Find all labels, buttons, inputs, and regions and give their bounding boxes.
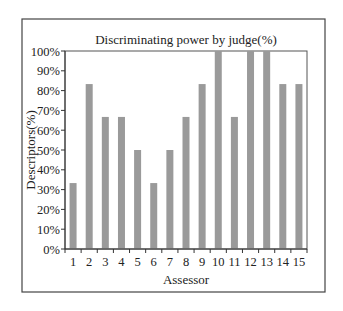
x-tick-label: 14 xyxy=(277,255,290,269)
x-tick-label: 1 xyxy=(70,255,76,269)
bar-6 xyxy=(150,183,157,249)
y-axis-label: Descriptors(%) xyxy=(23,110,38,189)
bar-4 xyxy=(118,117,125,249)
y-tick-label: 0% xyxy=(43,243,60,257)
bar-11 xyxy=(231,117,238,249)
x-tick-label: 11 xyxy=(228,255,240,269)
bar-1 xyxy=(70,183,77,249)
bars-group xyxy=(70,51,303,249)
bar-5 xyxy=(134,150,141,249)
x-tick-label: 4 xyxy=(118,255,125,269)
x-axis: 123456789101112131415 xyxy=(65,249,307,269)
y-tick-label: 70% xyxy=(37,104,60,118)
y-tick-label: 40% xyxy=(37,163,60,177)
x-axis-label: Assessor xyxy=(163,272,210,287)
x-tick-label: 12 xyxy=(244,255,257,269)
x-tick-label: 8 xyxy=(183,255,189,269)
x-tick-label: 6 xyxy=(151,255,157,269)
x-tick-label: 5 xyxy=(134,255,140,269)
y-tick-label: 90% xyxy=(37,64,60,78)
x-tick-label: 13 xyxy=(260,255,273,269)
bar-3 xyxy=(102,117,109,249)
y-tick-label: 50% xyxy=(37,144,60,158)
bar-9 xyxy=(199,84,206,249)
x-tick-label: 7 xyxy=(167,255,173,269)
bar-13 xyxy=(263,51,270,249)
chart-title: Discriminating power by judge(%) xyxy=(95,32,277,47)
bar-15 xyxy=(295,84,302,249)
y-tick-label: 60% xyxy=(37,124,60,138)
bar-8 xyxy=(183,117,190,249)
y-tick-label: 80% xyxy=(37,84,60,98)
y-tick-label: 20% xyxy=(37,203,60,217)
bar-2 xyxy=(86,84,93,249)
x-tick-label: 3 xyxy=(102,255,108,269)
x-tick-label: 2 xyxy=(86,255,92,269)
chart: Discriminating power by judge(%) 0%10%20… xyxy=(0,0,343,311)
bar-12 xyxy=(247,51,254,249)
bar-10 xyxy=(215,51,222,249)
x-tick-label: 10 xyxy=(212,255,225,269)
x-tick-label: 15 xyxy=(293,255,306,269)
bar-7 xyxy=(166,150,173,249)
y-tick-label: 30% xyxy=(37,183,60,197)
x-tick-label: 9 xyxy=(199,255,205,269)
y-tick-label: 10% xyxy=(37,223,60,237)
y-tick-label: 100% xyxy=(31,45,60,59)
bar-14 xyxy=(279,84,286,249)
